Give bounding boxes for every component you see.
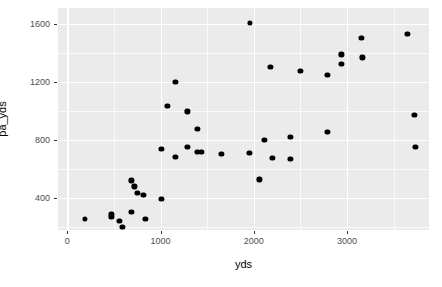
data-point	[129, 178, 134, 183]
data-point	[159, 146, 164, 151]
data-point	[195, 127, 200, 132]
grid-line-major-horizontal	[58, 82, 429, 83]
x-tick-mark	[161, 231, 162, 234]
data-point	[83, 217, 88, 222]
data-point	[117, 219, 122, 224]
x-axis-title: yds	[58, 258, 429, 270]
plot-panel	[58, 8, 429, 230]
y-tick-label: 1600	[0, 19, 50, 29]
scatter-plot-figure: 40080012001600 0100020003000 yds pa_yds	[0, 0, 442, 287]
y-tick-mark	[54, 198, 57, 199]
grid-line-minor-vertical	[114, 8, 115, 230]
data-point	[129, 210, 134, 215]
grid-line-major-vertical	[254, 8, 255, 230]
data-point	[185, 144, 190, 149]
data-point	[141, 192, 146, 197]
y-tick-label: 400	[0, 193, 50, 203]
grid-line-minor-vertical	[394, 8, 395, 230]
x-tick-mark	[67, 231, 68, 234]
data-point	[165, 103, 170, 108]
data-point	[270, 155, 275, 160]
data-point	[262, 137, 267, 142]
data-point	[298, 69, 303, 74]
data-point	[359, 35, 364, 40]
y-tick-mark	[54, 140, 57, 141]
x-tick-mark	[254, 231, 255, 234]
data-point	[325, 72, 330, 77]
data-point	[247, 150, 252, 155]
data-point	[199, 149, 204, 154]
grid-line-minor-horizontal	[58, 111, 429, 112]
grid-line-major-vertical	[67, 8, 68, 230]
data-point	[143, 216, 148, 221]
y-tick-mark	[54, 24, 57, 25]
data-point	[135, 191, 140, 196]
data-point	[219, 151, 224, 156]
grid-line-minor-vertical	[300, 8, 301, 230]
data-point	[173, 154, 178, 159]
data-point	[413, 144, 418, 149]
y-axis-title: pa_yds	[0, 101, 8, 136]
data-point	[339, 52, 344, 57]
y-tick-label: 1200	[0, 77, 50, 87]
data-point	[268, 65, 273, 70]
data-point	[257, 177, 262, 182]
x-tick-label: 2000	[244, 236, 264, 246]
y-tick-mark	[54, 82, 57, 83]
data-point	[405, 31, 410, 36]
data-point	[339, 62, 344, 67]
data-point	[185, 109, 190, 114]
data-point	[132, 184, 137, 189]
grid-line-major-horizontal	[58, 24, 429, 25]
x-tick-label: 1000	[151, 236, 171, 246]
data-point	[173, 79, 178, 84]
x-tick-label: 0	[65, 236, 70, 246]
grid-line-minor-horizontal	[58, 53, 429, 54]
data-point	[120, 225, 125, 230]
x-tick-label: 3000	[337, 236, 357, 246]
grid-line-major-vertical	[347, 8, 348, 230]
grid-line-minor-vertical	[207, 8, 208, 230]
grid-line-major-horizontal	[58, 198, 429, 199]
data-point	[288, 156, 293, 161]
data-point	[288, 135, 293, 140]
x-tick-mark	[347, 231, 348, 234]
data-point	[159, 197, 164, 202]
grid-line-minor-horizontal	[58, 227, 429, 228]
data-point	[325, 130, 330, 135]
grid-line-major-horizontal	[58, 140, 429, 141]
data-point	[412, 112, 417, 117]
data-point	[360, 55, 365, 60]
grid-line-minor-horizontal	[58, 169, 429, 170]
